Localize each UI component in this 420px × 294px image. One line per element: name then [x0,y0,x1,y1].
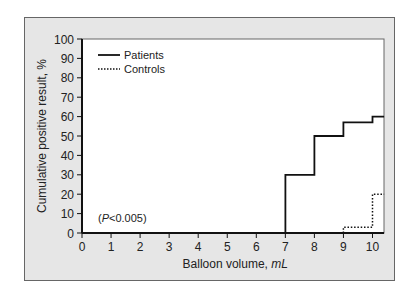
y-tick-label: 60 [61,110,75,124]
x-tick-label: 10 [366,240,380,254]
x-tick-label: 2 [137,240,144,254]
chart: 0102030405060708090100012345678910Cumula… [0,0,420,294]
p-value-annotation: (P<0.005) [98,212,147,224]
x-tick-label: 8 [311,240,318,254]
y-tick-label: 100 [54,33,74,47]
x-axis-title: Balloon volume, mL [183,257,288,271]
y-tick-label: 10 [61,207,75,221]
y-tick-label: 70 [61,91,75,105]
x-tick-label: 1 [108,240,115,254]
y-tick-label: 20 [61,188,75,202]
x-tick-label: 6 [253,240,260,254]
legend-patients-label: Patients [124,49,164,61]
legend-controls-label: Controls [124,63,165,75]
x-tick-label: 4 [195,240,202,254]
x-tick-label: 7 [282,240,289,254]
y-tick-label: 30 [61,168,75,182]
x-tick-label: 5 [224,240,231,254]
y-axis-title: Cumulative positive result, % [35,59,49,213]
x-tick-label: 0 [79,240,86,254]
y-tick-label: 40 [61,149,75,163]
y-tick-label: 80 [61,71,75,85]
x-tick-label: 9 [340,240,347,254]
y-tick-label: 0 [67,227,74,241]
y-tick-label: 90 [61,52,75,66]
y-tick-label: 50 [61,130,75,144]
x-tick-label: 3 [166,240,173,254]
